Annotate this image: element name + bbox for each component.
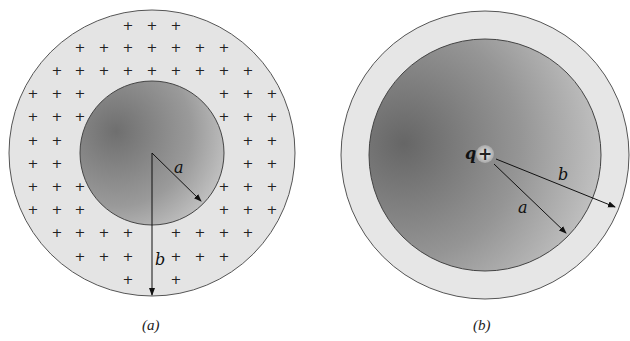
svg-text:+: + xyxy=(123,40,134,55)
svg-text:+: + xyxy=(219,249,230,264)
svg-text:+: + xyxy=(171,225,182,240)
svg-text:+: + xyxy=(171,249,182,264)
svg-text:+: + xyxy=(267,86,278,101)
charge-plus-icon: + xyxy=(478,144,492,164)
svg-text:+: + xyxy=(52,225,63,240)
svg-text:+: + xyxy=(28,109,39,124)
svg-text:+: + xyxy=(52,133,63,148)
svg-text:+: + xyxy=(52,63,63,78)
svg-text:+: + xyxy=(28,86,39,101)
svg-text:+: + xyxy=(99,225,110,240)
svg-text:+: + xyxy=(243,86,254,101)
svg-text:+: + xyxy=(219,225,230,240)
svg-text:+: + xyxy=(123,272,134,287)
figure-a: +++ +++++++ +++++++++ ++++++ ++++++ ++++… xyxy=(9,10,295,334)
svg-text:+: + xyxy=(123,18,134,33)
svg-text:+: + xyxy=(195,249,206,264)
svg-text:+: + xyxy=(28,202,39,217)
svg-text:+: + xyxy=(52,86,63,101)
svg-text:+: + xyxy=(52,156,63,171)
caption-a: (a) xyxy=(142,317,160,334)
svg-text:+: + xyxy=(195,40,206,55)
svg-text:+: + xyxy=(28,133,39,148)
svg-text:+: + xyxy=(219,86,230,101)
svg-text:+: + xyxy=(219,109,230,124)
svg-text:+: + xyxy=(123,63,134,78)
svg-text:+: + xyxy=(171,272,182,287)
svg-text:+: + xyxy=(243,202,254,217)
svg-text:+: + xyxy=(75,86,86,101)
svg-text:+: + xyxy=(171,63,182,78)
label-b-b: b xyxy=(558,165,568,184)
svg-text:+: + xyxy=(219,40,230,55)
svg-text:+: + xyxy=(147,18,158,33)
svg-text:+: + xyxy=(28,156,39,171)
svg-text:+: + xyxy=(171,40,182,55)
svg-text:+: + xyxy=(75,109,86,124)
figure-b: + q a b (b) xyxy=(341,11,629,334)
svg-text:+: + xyxy=(75,40,86,55)
svg-text:+: + xyxy=(171,18,182,33)
svg-text:+: + xyxy=(243,109,254,124)
svg-text:+: + xyxy=(243,156,254,171)
svg-text:+: + xyxy=(243,63,254,78)
svg-text:+: + xyxy=(99,249,110,264)
svg-text:+: + xyxy=(195,63,206,78)
svg-text:+: + xyxy=(195,225,206,240)
svg-text:+: + xyxy=(219,179,230,194)
svg-text:+: + xyxy=(267,179,278,194)
svg-text:+: + xyxy=(75,249,86,264)
diagram-canvas: +++ +++++++ +++++++++ ++++++ ++++++ ++++… xyxy=(0,0,630,341)
svg-text:+: + xyxy=(243,225,254,240)
svg-text:+: + xyxy=(99,63,110,78)
svg-text:+: + xyxy=(52,202,63,217)
label-b: b xyxy=(155,250,165,269)
svg-text:+: + xyxy=(99,40,110,55)
svg-text:+: + xyxy=(123,249,134,264)
svg-text:+: + xyxy=(267,109,278,124)
svg-text:+: + xyxy=(75,63,86,78)
label-a-b: a xyxy=(518,198,528,217)
svg-text:+: + xyxy=(267,156,278,171)
svg-text:+: + xyxy=(243,133,254,148)
label-q: q xyxy=(465,144,476,163)
svg-text:+: + xyxy=(243,179,254,194)
svg-text:+: + xyxy=(123,225,134,240)
svg-text:+: + xyxy=(147,63,158,78)
svg-text:+: + xyxy=(28,179,39,194)
svg-text:+: + xyxy=(219,202,230,217)
svg-text:+: + xyxy=(267,133,278,148)
svg-text:+: + xyxy=(75,202,86,217)
svg-text:+: + xyxy=(52,179,63,194)
svg-text:+: + xyxy=(147,40,158,55)
caption-b: (b) xyxy=(473,317,491,334)
svg-text:+: + xyxy=(219,63,230,78)
label-a: a xyxy=(174,158,184,177)
svg-text:+: + xyxy=(75,225,86,240)
svg-text:+: + xyxy=(267,202,278,217)
svg-text:+: + xyxy=(52,109,63,124)
svg-text:+: + xyxy=(75,179,86,194)
